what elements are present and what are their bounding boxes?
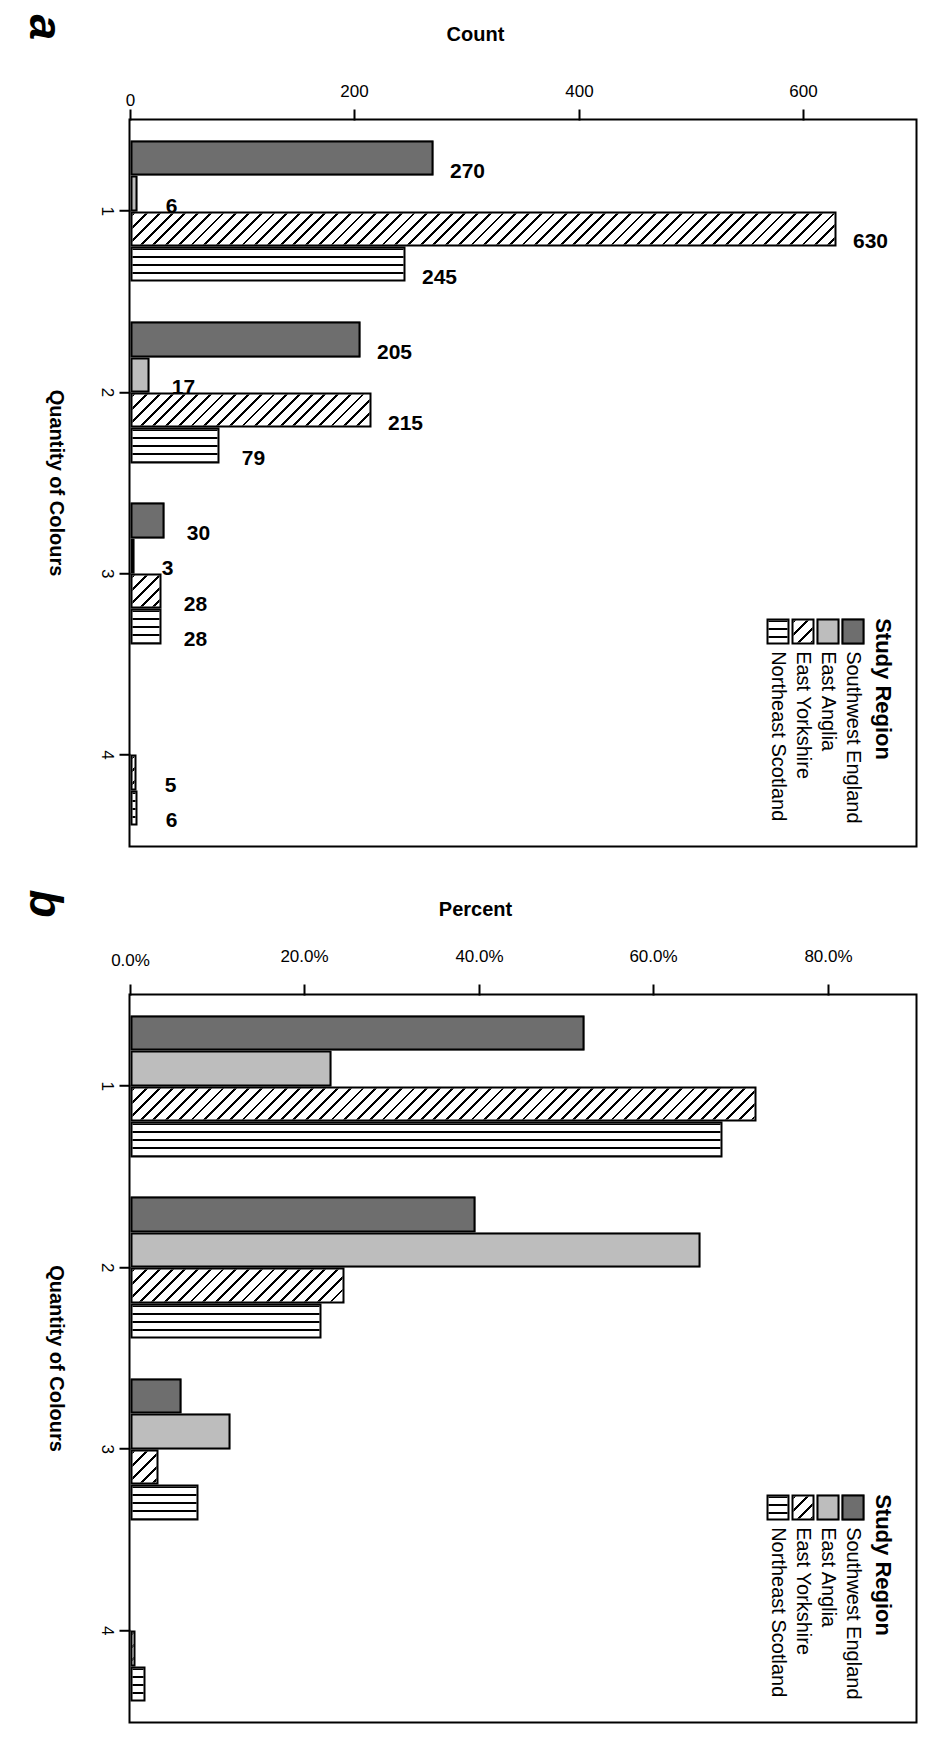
bar-ey-cat-2 <box>130 392 371 427</box>
legend-item-east-anglia: East Anglia <box>816 1494 839 1627</box>
legend-title: Study Region <box>869 1494 895 1636</box>
bar-value-label: 28 <box>184 626 207 650</box>
legend-item-northeast-scotland: Northeast Scotland <box>766 618 789 821</box>
legend-swatch-icon-east-yorkshire <box>791 618 814 644</box>
y-tick-mark <box>802 109 804 120</box>
panel-a-legend: Study Region Southwest England East Angl… <box>764 618 895 823</box>
bar-nes-cat-3 <box>130 608 161 643</box>
bar-nes-cat-1 <box>130 246 405 281</box>
panel-a-x-axis-title: Quantity of Colours <box>44 120 67 845</box>
bar-value-label: 270 <box>449 158 484 182</box>
x-tick: 1 <box>96 1081 130 1090</box>
legend-item-northeast-scotland: Northeast Scotland <box>766 1494 789 1697</box>
panel-a-letter: a <box>18 14 72 39</box>
bar-sw-cat-3 <box>130 1378 181 1413</box>
legend-item-southwest-england: Southwest England <box>841 618 864 823</box>
x-tick-mark <box>119 1266 130 1268</box>
y-tick-label: 20.0% <box>280 946 328 966</box>
bar-value-label: 5 <box>164 772 176 796</box>
x-tick: 2 <box>96 1263 130 1272</box>
panel-b-plot-area: Quantity of Colours 0.0%20.0%40.0%60.0%8… <box>128 993 917 1723</box>
bar-ea-cat-1 <box>130 175 137 210</box>
y-tick-mark <box>129 984 131 995</box>
bar-ey-cat-1 <box>130 211 837 246</box>
bar-nes-cat-2 <box>130 427 219 462</box>
y-tick-label: 60.0% <box>629 946 677 966</box>
legend-label-northeast-scotland: Northeast Scotland <box>766 651 789 821</box>
panel-a-plot-area: 27066302452051721579303282856 Quantity o… <box>128 118 917 847</box>
panel-b-legend: Study Region Southwest England East Angl… <box>764 1494 895 1699</box>
bar-ey-cat-3 <box>130 1449 158 1484</box>
bar-sw-cat-1 <box>130 1015 584 1050</box>
panel-b-y-axis-title: Percent <box>439 898 512 921</box>
x-tick-mark <box>119 753 130 755</box>
x-tick-label: 2 <box>96 1263 116 1272</box>
y-tick-label: 600 <box>789 81 817 101</box>
legend-swatch-icon-northeast-scotland <box>766 1494 789 1520</box>
x-tick-mark <box>119 1085 130 1087</box>
x-tick-label: 4 <box>96 1626 116 1635</box>
legend-label-northeast-scotland: Northeast Scotland <box>766 1527 789 1697</box>
y-tick-mark <box>578 109 580 120</box>
bar-value-label: 630 <box>853 228 888 252</box>
x-tick: 1 <box>96 206 130 215</box>
x-tick-label: 3 <box>96 1444 116 1453</box>
legend-swatch-icon-southwest-england <box>841 1494 864 1520</box>
bar-ea-cat-3 <box>130 1413 230 1448</box>
x-tick: 4 <box>96 1626 130 1635</box>
bar-value-label: 28 <box>184 591 207 615</box>
y-tick-label: 40.0% <box>455 946 503 966</box>
legend-item-east-yorkshire: East Yorkshire <box>791 1494 814 1655</box>
x-tick-label: 1 <box>96 1081 116 1090</box>
legend-label-east-anglia: East Anglia <box>816 1527 839 1627</box>
x-tick-mark <box>119 391 130 393</box>
x-tick: 2 <box>96 387 130 396</box>
bar-ey-cat-4 <box>130 754 136 789</box>
bar-ey-cat-4 <box>130 1630 135 1665</box>
bar-ea-cat-2 <box>130 357 149 392</box>
legend-swatch-icon-southwest-england <box>841 618 864 644</box>
bar-sw-cat-2 <box>130 321 360 356</box>
y-tick-mark <box>353 109 355 120</box>
legend-swatch-icon-east-yorkshire <box>791 1494 814 1520</box>
x-tick: 3 <box>96 568 130 577</box>
bar-ea-cat-3 <box>130 538 134 573</box>
legend-item-east-yorkshire: East Yorkshire <box>791 618 814 779</box>
legend-title: Study Region <box>869 618 895 760</box>
legend-swatch-icon-east-anglia <box>816 1494 839 1520</box>
bar-value-label: 215 <box>388 410 423 434</box>
panel-b-letter: b <box>18 889 72 916</box>
bar-sw-cat-1 <box>130 140 433 175</box>
y-tick-label: 200 <box>340 81 368 101</box>
y-tick-mark <box>478 984 480 995</box>
bar-sw-cat-2 <box>130 1196 475 1231</box>
bar-value-label: 205 <box>376 339 411 363</box>
panel-b-x-axis-title: Quantity of Colours <box>44 995 67 1721</box>
figure-stage: a Count 27066302452051721579303282856 Qu… <box>0 0 951 1751</box>
bar-ea-cat-2 <box>130 1232 700 1267</box>
bar-value-label: 6 <box>165 807 177 831</box>
legend-label-east-yorkshire: East Yorkshire <box>791 651 814 779</box>
bar-value-label: 3 <box>162 555 174 579</box>
legend-item-east-anglia: East Anglia <box>816 618 839 751</box>
x-tick-mark <box>119 572 130 574</box>
y-tick-mark <box>303 984 305 995</box>
panel-a-y-axis-title: Count <box>447 23 505 46</box>
legend-label-east-yorkshire: East Yorkshire <box>791 1527 814 1655</box>
y-tick-label: 0 <box>125 90 134 110</box>
bar-nes-cat-2 <box>130 1303 321 1338</box>
bar-ey-cat-2 <box>130 1267 344 1302</box>
bar-nes-cat-4 <box>130 1666 145 1701</box>
bar-sw-cat-3 <box>130 502 164 537</box>
panel-a: a Count 27066302452051721579303282856 Qu… <box>0 0 951 875</box>
legend-swatch-icon-east-anglia <box>816 618 839 644</box>
legend-label-southwest-england: Southwest England <box>841 1527 864 1699</box>
y-tick-label: 0.0% <box>111 951 150 971</box>
x-tick-mark <box>119 1448 130 1450</box>
bar-ey-cat-3 <box>130 573 161 608</box>
x-tick-mark <box>119 1629 130 1631</box>
bar-nes-cat-4 <box>130 790 137 825</box>
legend-item-southwest-england: Southwest England <box>841 1494 864 1699</box>
x-tick-label: 2 <box>96 387 116 396</box>
x-tick-label: 4 <box>96 750 116 759</box>
